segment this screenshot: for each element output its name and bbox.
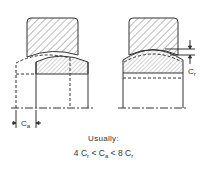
cr-label: Cr xyxy=(188,67,196,77)
right-figure-radial xyxy=(118,18,195,108)
outer-ring-left xyxy=(27,18,78,57)
ca-label: Ca xyxy=(21,119,31,129)
caption-usually: Usually: xyxy=(0,134,207,143)
caption-formula: 4 Cr < Ca < 8 Cr xyxy=(0,148,207,159)
left-figure-axial xyxy=(11,18,93,128)
inner-ring-left xyxy=(36,56,88,74)
bearing-clearance-diagram: Ca Cr xyxy=(0,0,207,171)
